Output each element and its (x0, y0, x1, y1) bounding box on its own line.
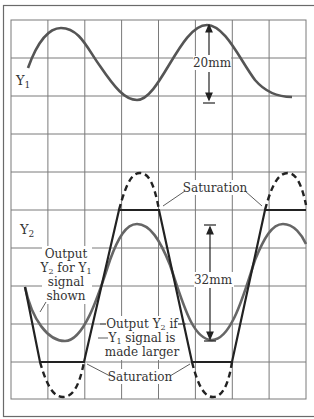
output-shown-annotation: Output Y2 for Y1 signal shown (39, 247, 91, 303)
oscilloscope-figure: 20mm 32mm Y1 Y2 Saturation Saturation Ou… (0, 0, 314, 419)
svg-text:signal: signal (48, 275, 85, 289)
svg-text:shown: shown (46, 289, 85, 303)
amplitude-20mm-label: 20mm (193, 56, 232, 70)
y1-input-trace (28, 25, 292, 100)
svg-text:Y2 for Y1: Y2 for Y1 (39, 261, 91, 276)
svg-text:Output: Output (45, 247, 88, 261)
saturation-top-label: Saturation (183, 181, 248, 195)
output-larger-annotation: Output Y2 if Y1 signal is made larger (105, 317, 180, 359)
svg-text:Output Y2 if: Output Y2 if (106, 317, 179, 332)
saturation-bottom-label: Saturation (108, 370, 173, 384)
svg-text:made larger: made larger (105, 345, 180, 359)
y1-label: Y1 (15, 73, 30, 90)
y2-label: Y2 (19, 222, 34, 239)
amplitude-32mm-label: 32mm (194, 273, 233, 287)
